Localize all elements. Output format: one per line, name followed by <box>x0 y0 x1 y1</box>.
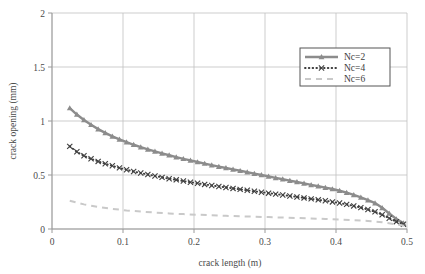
data-point-marker <box>67 144 72 149</box>
x-axis-tick-labels: 00.10.20.30.40.5 <box>50 237 414 247</box>
legend-label: Nc=6 <box>344 74 365 84</box>
data-point-marker <box>337 200 342 205</box>
axis-lines <box>48 13 407 233</box>
y-tick-label: 1.5 <box>33 63 45 73</box>
data-point-marker <box>344 202 349 207</box>
x-tick-label: 0 <box>50 237 55 247</box>
crack-opening-line-chart: 00.511.52 00.10.20.30.40.5 crack opening… <box>0 0 425 274</box>
x-tick-label: 0.3 <box>259 237 271 247</box>
chart-figure: 00.511.52 00.10.20.30.40.5 crack opening… <box>0 0 425 274</box>
y-tick-label: 1 <box>40 117 45 127</box>
data-point-marker <box>202 182 207 187</box>
legend-label: Nc=2 <box>344 52 365 62</box>
data-point-marker <box>67 105 73 110</box>
data-point-marker <box>209 183 214 188</box>
x-tick-label: 0.5 <box>401 237 413 247</box>
legend: Nc=2Nc=4Nc=6 <box>300 48 390 86</box>
legend-label: Nc=4 <box>344 63 365 73</box>
data-point-marker <box>74 149 79 154</box>
y-tick-label: 0 <box>40 225 45 235</box>
data-point-marker <box>216 184 221 189</box>
series-line <box>70 146 404 224</box>
data-point-marker <box>266 191 271 196</box>
y-tick-label: 0.5 <box>33 171 45 181</box>
x-tick-label: 0.2 <box>188 237 200 247</box>
y-axis-tick-labels: 00.511.52 <box>33 9 45 235</box>
data-series-layer <box>67 105 407 227</box>
data-point-marker <box>330 199 335 204</box>
data-point-marker <box>280 192 285 197</box>
x-tick-label: 0.1 <box>117 237 129 247</box>
data-point-marker <box>152 173 157 178</box>
series-nc4 <box>67 144 406 227</box>
y-tick-label: 2 <box>40 9 45 19</box>
data-point-marker <box>145 172 150 177</box>
data-point-marker <box>131 169 136 174</box>
x-axis-title: crack length (m) <box>199 258 262 269</box>
x-tick-label: 0.4 <box>330 237 342 247</box>
y-axis-title: crack opening (mm) <box>8 82 19 159</box>
data-point-marker <box>273 192 278 197</box>
